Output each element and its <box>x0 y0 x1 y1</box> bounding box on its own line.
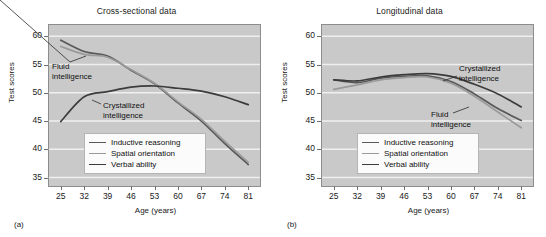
y-tick-mark <box>317 121 321 122</box>
annotation-fluid-intelligence-b: Fluid intelligence <box>431 110 471 130</box>
x-tick-mark <box>84 186 85 190</box>
panel-a-tag: (a) <box>14 220 24 229</box>
y-tick-label: 50 <box>289 87 315 97</box>
legend-swatch-icon <box>89 153 106 154</box>
annotation-crystallized-intelligence-b: Crystallized intelligence <box>459 64 500 84</box>
x-tick-label: 81 <box>506 191 536 201</box>
annotation-line-1: Fluid <box>431 110 471 120</box>
x-tick-mark <box>381 186 382 190</box>
legend-item-verbal-ability: Verbal ability <box>89 159 199 170</box>
panel-b-title: Longitudinal data <box>273 6 546 16</box>
y-tick-label: 40 <box>289 143 315 153</box>
y-tick-label: 55 <box>289 59 315 69</box>
x-tick-label: 81 <box>233 191 263 201</box>
annotation-crystallized-intelligence-a: Crystallized intelligence <box>103 101 144 121</box>
y-tick-mark <box>44 93 48 94</box>
legend-item-spatial-orientation: Spatial orientation <box>89 148 199 159</box>
panel-a-title: Cross-sectional data <box>0 6 273 16</box>
figure: Cross-sectional data Test scores Age (ye… <box>0 0 546 237</box>
legend-swatch-icon <box>362 142 379 143</box>
x-tick-mark <box>334 186 335 190</box>
y-tick-mark <box>317 93 321 94</box>
panel-a-y-axis-label: Test scores <box>7 38 16 128</box>
annotation-line-1: Crystallized <box>103 101 144 111</box>
x-tick-mark <box>404 186 405 190</box>
y-tick-label: 60 <box>289 30 315 40</box>
y-tick-mark <box>44 149 48 150</box>
y-tick-mark <box>44 121 48 122</box>
annotation-line-2: intelligence <box>459 74 500 84</box>
y-tick-mark <box>317 65 321 66</box>
y-tick-mark <box>44 178 48 179</box>
x-tick-mark <box>248 186 249 190</box>
panel-cross-sectional: Cross-sectional data Test scores Age (ye… <box>0 0 273 237</box>
y-tick-mark <box>317 149 321 150</box>
panel-a-x-axis-label: Age (years) <box>48 206 263 215</box>
x-tick-mark <box>225 186 226 190</box>
y-tick-label: 35 <box>16 172 42 182</box>
panel-b-tag: (b) <box>287 220 297 229</box>
annotation-line-2: intelligence <box>431 120 471 130</box>
y-tick-label: 55 <box>16 59 42 69</box>
panel-b-legend: Inductive reasoning Spatial orientation … <box>357 133 479 174</box>
legend-swatch-icon <box>89 142 106 143</box>
legend-swatch-icon <box>362 153 379 154</box>
x-tick-mark <box>201 186 202 190</box>
y-tick-mark <box>317 178 321 179</box>
y-tick-mark <box>317 36 321 37</box>
x-tick-mark <box>474 186 475 190</box>
legend-label: Verbal ability <box>111 160 156 169</box>
x-tick-mark <box>428 186 429 190</box>
x-tick-mark <box>108 186 109 190</box>
y-tick-label: 60 <box>16 30 42 40</box>
legend-item-verbal-ability: Verbal ability <box>362 159 472 170</box>
x-tick-mark <box>521 186 522 190</box>
legend-label: Inductive reasoning <box>384 138 453 147</box>
annotation-line-1: Fluid <box>52 62 92 72</box>
legend-swatch-icon <box>362 164 379 165</box>
panel-b-y-axis-label: Test scores <box>280 38 289 128</box>
annotation-line-2: intelligence <box>52 72 92 82</box>
x-tick-mark <box>451 186 452 190</box>
x-tick-mark <box>155 186 156 190</box>
x-tick-mark <box>357 186 358 190</box>
annotation-line-2: intelligence <box>103 111 144 121</box>
y-tick-mark <box>44 65 48 66</box>
annotation-fluid-intelligence-a: Fluid intelligence <box>52 62 92 82</box>
legend-label: Spatial orientation <box>111 149 175 158</box>
panel-b-x-axis-label: Age (years) <box>321 206 536 215</box>
legend-item-inductive-reasoning: Inductive reasoning <box>362 137 472 148</box>
y-tick-label: 50 <box>16 87 42 97</box>
y-tick-label: 45 <box>16 115 42 125</box>
x-tick-mark <box>131 186 132 190</box>
panel-longitudinal: Longitudinal data Test scores Age (years… <box>273 0 546 237</box>
x-tick-mark <box>498 186 499 190</box>
y-tick-label: 45 <box>289 115 315 125</box>
y-tick-label: 40 <box>16 143 42 153</box>
legend-label: Spatial orientation <box>384 149 448 158</box>
legend-swatch-icon <box>89 164 106 165</box>
x-tick-mark <box>178 186 179 190</box>
panel-a-legend: Inductive reasoning Spatial orientation … <box>84 133 206 174</box>
legend-item-spatial-orientation: Spatial orientation <box>362 148 472 159</box>
annotation-line-1: Crystallized <box>459 64 500 74</box>
legend-label: Inductive reasoning <box>111 138 180 147</box>
y-tick-label: 35 <box>289 172 315 182</box>
y-tick-mark <box>44 36 48 37</box>
x-tick-mark <box>61 186 62 190</box>
legend-label: Verbal ability <box>384 160 429 169</box>
legend-item-inductive-reasoning: Inductive reasoning <box>89 137 199 148</box>
